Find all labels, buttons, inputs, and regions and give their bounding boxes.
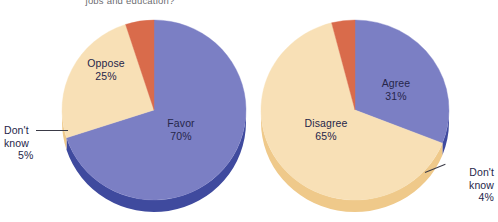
left-label-oppose: Oppose 25% xyxy=(72,57,140,82)
right-agree-pct: 31% xyxy=(366,90,426,103)
left-dk-pct: 5% xyxy=(4,149,52,162)
left-label-favor: Favor 70% xyxy=(150,117,212,142)
left-favor-pct: 70% xyxy=(150,130,212,143)
right-label-dontknow: Don't know 4% xyxy=(444,166,494,204)
left-oppose-pct: 25% xyxy=(72,70,140,83)
left-dk-line1: Don't xyxy=(4,124,29,136)
left-oppose-name: Oppose xyxy=(87,57,124,69)
right-label-agree: Agree 31% xyxy=(366,77,426,102)
left-dk-line2: know xyxy=(4,137,52,150)
right-dk-pct: 4% xyxy=(444,191,494,204)
right-label-disagree: Disagree 65% xyxy=(288,117,364,142)
chart-canvas: jobs and education? Favor 70% Oppose 25%… xyxy=(0,0,498,222)
right-disagree-pct: 65% xyxy=(288,130,364,143)
caption-text: jobs and education? xyxy=(0,0,260,6)
left-dontknow-leader-line xyxy=(36,130,68,131)
right-agree-name: Agree xyxy=(382,77,411,89)
left-favor-name: Favor xyxy=(167,117,194,129)
right-dk-line2: know xyxy=(444,179,494,192)
right-dk-line1: Don't xyxy=(469,166,494,178)
right-disagree-name: Disagree xyxy=(305,117,348,129)
